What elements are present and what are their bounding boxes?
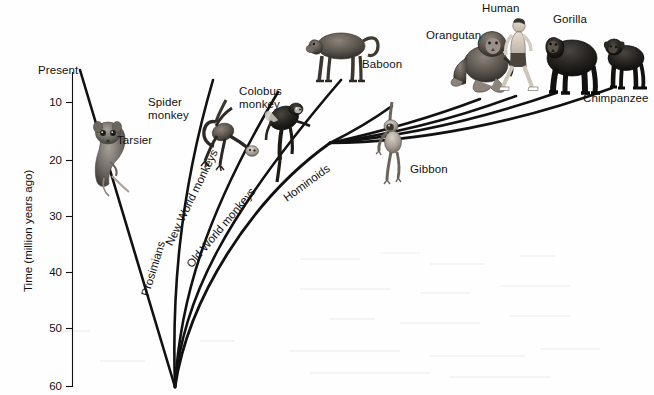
tarsier-image [93, 121, 129, 196]
y-tick-20: 20 [32, 154, 62, 166]
taxon-label-gibbon: Gibbon [410, 163, 448, 176]
y-tick-50: 50 [32, 322, 62, 334]
taxon-label-baboon: Baboon [362, 58, 402, 71]
taxon-label-gorilla: Gorilla [553, 13, 587, 26]
human-image [499, 18, 538, 90]
taxon-label-orangutan: Orangutan [426, 29, 481, 42]
y-tick-30: 30 [32, 210, 62, 222]
baboon-image [306, 33, 378, 81]
y-tick-40: 40 [32, 266, 62, 278]
taxon-label-spider-monkey: Spider monkey [148, 96, 189, 122]
branch-chimpanzee [330, 88, 612, 143]
y-tick-60: 60 [32, 380, 62, 392]
primate-phylogeny-figure: Time (million years ago) Present 10 20 3… [0, 0, 654, 395]
taxon-label-chimpanzee: Chimpanzee [583, 92, 649, 105]
taxon-label-colobus-monkey: Colobus monkey [239, 85, 282, 111]
taxon-label-tarsier: Tarsier [117, 134, 152, 147]
y-axis [66, 72, 73, 387]
phylogeny-canvas [0, 0, 654, 395]
y-tick-10: 10 [32, 96, 62, 108]
taxon-label-human: Human [482, 2, 520, 15]
colobus-monkey-image [265, 102, 310, 182]
gorilla-image [546, 38, 600, 93]
chimpanzee-image [604, 39, 647, 88]
present-label: Present [38, 64, 78, 77]
